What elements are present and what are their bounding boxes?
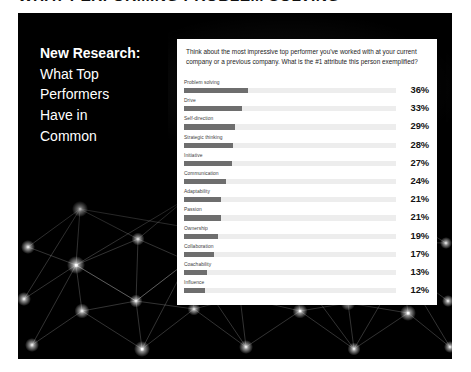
bar-row: Coachability13% bbox=[181, 262, 433, 280]
bar-track bbox=[184, 106, 396, 111]
headline-line-4: Common bbox=[40, 126, 180, 147]
bar-fill bbox=[184, 288, 205, 293]
bar-row: Self-direction29% bbox=[181, 116, 433, 134]
bar-category-label: Drive bbox=[184, 98, 196, 103]
bar-category-label: Communication bbox=[184, 171, 219, 176]
bar-category-label: Coachability bbox=[184, 262, 211, 267]
bar-row: Collaboration17% bbox=[181, 244, 433, 262]
bar-value-label: 27% bbox=[411, 157, 429, 168]
bar-category-label: Passion bbox=[184, 207, 202, 212]
bar-row: Problem solving36% bbox=[181, 80, 433, 98]
bar-value-label: 33% bbox=[411, 102, 429, 113]
chart-panel: Think about the most impressive top perf… bbox=[177, 39, 437, 305]
bar-track bbox=[184, 143, 396, 148]
bar-category-label: Adaptability bbox=[184, 189, 210, 194]
bar-value-label: 21% bbox=[411, 193, 429, 204]
bar-category-label: Strategic thinking bbox=[184, 135, 222, 140]
bar-track bbox=[184, 215, 396, 220]
bar-fill bbox=[184, 124, 235, 129]
bar-fill bbox=[184, 234, 218, 239]
bar-category-label: Ownership bbox=[184, 226, 208, 231]
bar-row: Initiative27% bbox=[181, 153, 433, 171]
bar-track bbox=[184, 270, 396, 275]
bar-row: Communication24% bbox=[181, 171, 433, 189]
bar-row: Influence12% bbox=[181, 280, 433, 298]
headline-line-1: What Top bbox=[40, 64, 180, 85]
bar-track bbox=[184, 288, 396, 293]
slide-headline: New Research: What Top Performers Have i… bbox=[40, 43, 180, 147]
bar-fill bbox=[184, 161, 232, 166]
slide-canvas: New Research: What Top Performers Have i… bbox=[18, 13, 452, 359]
bar-row: Adaptability21% bbox=[181, 189, 433, 207]
bar-value-label: 24% bbox=[411, 175, 429, 186]
bar-track bbox=[184, 234, 396, 239]
bar-value-label: 12% bbox=[411, 284, 429, 295]
bar-row: Drive33% bbox=[181, 98, 433, 116]
bar-chart: Problem solving36%Drive33%Self-direction… bbox=[181, 80, 433, 301]
bar-value-label: 21% bbox=[411, 211, 429, 222]
survey-question: Think about the most impressive top perf… bbox=[186, 47, 422, 68]
bar-fill bbox=[184, 106, 242, 111]
bar-value-label: 17% bbox=[411, 248, 429, 259]
bar-category-label: Influence bbox=[184, 280, 204, 285]
bar-track bbox=[184, 252, 396, 257]
headline-line-2: Performers bbox=[40, 84, 180, 105]
bar-fill bbox=[184, 252, 214, 257]
bar-value-label: 36% bbox=[411, 84, 429, 95]
headline-line-3: Have in bbox=[40, 105, 180, 126]
headline-lead: New Research: bbox=[40, 43, 180, 64]
bar-row: Passion21% bbox=[181, 207, 433, 225]
bar-category-label: Self-direction bbox=[184, 116, 213, 121]
bar-value-label: 19% bbox=[411, 230, 429, 241]
page-title: WHAT PERFORMING PROBLEM SOLVING bbox=[18, 0, 458, 7]
bar-fill bbox=[184, 197, 221, 202]
bar-value-label: 29% bbox=[411, 120, 429, 131]
bar-value-label: 13% bbox=[411, 266, 429, 277]
bar-category-label: Problem solving bbox=[184, 80, 220, 85]
bar-fill bbox=[184, 143, 233, 148]
bar-track bbox=[184, 88, 396, 93]
bar-fill bbox=[184, 270, 207, 275]
bar-track bbox=[184, 179, 396, 184]
bar-track bbox=[184, 197, 396, 202]
bar-fill bbox=[184, 215, 221, 220]
bar-fill bbox=[184, 88, 248, 93]
bar-fill bbox=[184, 179, 226, 184]
bar-row: Strategic thinking28% bbox=[181, 135, 433, 153]
bar-row: Ownership19% bbox=[181, 226, 433, 244]
bar-category-label: Collaboration bbox=[184, 244, 213, 249]
bar-track bbox=[184, 124, 396, 129]
bar-value-label: 28% bbox=[411, 139, 429, 150]
bar-category-label: Initiative bbox=[184, 153, 202, 158]
bar-track bbox=[184, 161, 396, 166]
